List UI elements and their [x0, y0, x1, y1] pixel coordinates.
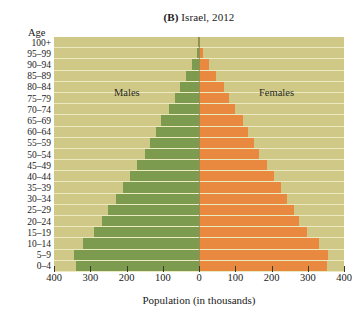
bar-female [199, 182, 281, 192]
bar-male [150, 138, 199, 148]
chart-title-prefix: (B) [164, 11, 179, 23]
y-axis-tick-label: 65–69 [8, 116, 51, 126]
x-axis-tick-label: 100 [227, 272, 243, 284]
bar-male [192, 59, 199, 69]
bar-male [130, 171, 199, 181]
y-axis-tick-label: 80–84 [8, 82, 51, 92]
chart-title: (B) Israel, 2012 [54, 11, 344, 24]
bar-female [199, 227, 307, 237]
bar-female [199, 194, 287, 204]
y-axis-tick-labels: 100+95–9990–9485–8980–8475–7970–7465–696… [8, 37, 51, 272]
bar-male [161, 115, 199, 125]
chart-title-text: Israel, 2012 [178, 11, 234, 23]
bar-male [102, 216, 199, 226]
y-axis-tick-label: 90–94 [8, 60, 51, 70]
y-axis-tick-label: 70–74 [8, 105, 51, 115]
bar-female [199, 138, 254, 148]
x-axis-tick-label: 300 [300, 272, 316, 284]
series-label-females: Females [259, 87, 294, 99]
bar-male [108, 205, 199, 215]
y-axis-tick-label: 100+ [8, 38, 51, 48]
bar-female [199, 205, 294, 215]
x-axis-tick-labels: 4003002001000100200300400 [54, 272, 344, 292]
bar-male [83, 238, 199, 248]
y-axis-tick-label: 5–9 [8, 250, 51, 260]
bar-female [199, 115, 243, 125]
bar-female [199, 149, 259, 159]
bar-male [156, 127, 200, 137]
bar-female [199, 127, 248, 137]
bar-male [94, 227, 199, 237]
x-axis-tick-label: 0 [196, 272, 201, 284]
y-axis-tick-label: 35–39 [8, 183, 51, 193]
x-axis-title: Population (in thousands) [54, 294, 344, 307]
x-axis-tick-label: 200 [264, 272, 280, 284]
y-axis-tick-label: 85–89 [8, 71, 51, 81]
population-pyramid-figure: (B) Israel, 2012 Age 100+95–9990–9485–89… [0, 0, 361, 320]
y-axis-tick-label: 75–79 [8, 94, 51, 104]
x-axis-tick-label: 400 [336, 272, 352, 284]
y-axis-tick-label: 45–49 [8, 161, 51, 171]
bar-male [169, 104, 199, 114]
zero-axis-line [199, 37, 200, 272]
bar-female [199, 71, 216, 81]
x-axis-tickmarks [54, 264, 344, 272]
y-axis-tick-label: 50–54 [8, 150, 51, 160]
bar-female [199, 59, 209, 69]
y-axis-tick-label: 55–59 [8, 138, 51, 148]
bar-female [199, 160, 267, 170]
bar-female [199, 82, 224, 92]
x-axis-tick-label: 100 [155, 272, 171, 284]
bar-female [199, 171, 274, 181]
bar-male [74, 250, 199, 260]
bar-female [199, 216, 299, 226]
y-axis-tick-label: 0–4 [8, 261, 51, 271]
bar-male [116, 194, 199, 204]
bar-female [199, 250, 328, 260]
bar-female [199, 93, 229, 103]
plot-area: MalesFemales [54, 37, 344, 272]
y-axis-tick-label: 15–19 [8, 228, 51, 238]
bar-female [199, 104, 235, 114]
bar-male [186, 71, 199, 81]
bar-male [180, 82, 199, 92]
y-axis-tick-label: 60–64 [8, 127, 51, 137]
y-axis-tick-label: 20–24 [8, 217, 51, 227]
bar-male [123, 182, 199, 192]
x-axis-tick-label: 200 [119, 272, 135, 284]
bar-male [145, 149, 199, 159]
bar-male [175, 93, 199, 103]
y-axis-tick-label: 30–34 [8, 194, 51, 204]
x-axis-tick-label: 400 [46, 272, 62, 284]
series-label-males: Males [114, 87, 140, 99]
y-axis-tick-label: 10–14 [8, 239, 51, 249]
bar-male [137, 160, 199, 170]
y-axis-tick-label: 95–99 [8, 49, 51, 59]
x-axis-tick-label: 300 [82, 272, 98, 284]
y-axis-tick-label: 40–44 [8, 172, 51, 182]
y-axis-tick-label: 25–29 [8, 205, 51, 215]
bar-female [199, 238, 319, 248]
